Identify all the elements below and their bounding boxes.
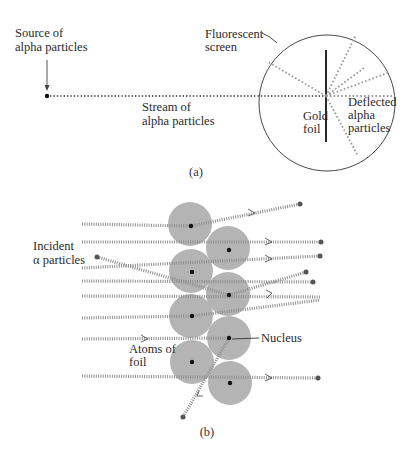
nucleus <box>190 314 194 318</box>
source-label-line1: Source of <box>15 26 64 40</box>
nucleus <box>228 381 232 385</box>
foil-atoms <box>168 202 252 405</box>
deflected-track <box>268 62 326 96</box>
alpha-source-dot <box>45 94 49 98</box>
particle-dot <box>318 254 323 259</box>
deflected-track <box>326 72 390 96</box>
caption-b: (b) <box>200 425 215 439</box>
deflected-label-line3: particles <box>348 121 390 135</box>
particle-dot <box>319 240 324 245</box>
arrow-icon <box>197 391 203 396</box>
atoms-label-line2: foil <box>129 355 147 369</box>
stream-label-line2: alpha particles <box>142 114 215 128</box>
particle-dot <box>95 255 100 260</box>
particle-dot <box>181 415 186 420</box>
particle-dot <box>316 376 321 381</box>
figure-a: Source of alpha particles Stream of alph… <box>15 26 397 179</box>
nucleus <box>190 360 194 364</box>
screen-label-line2: screen <box>205 40 238 54</box>
alpha-track <box>82 376 318 378</box>
incident-label-line1: Incident <box>33 239 74 253</box>
rutherford-diagram: Source of alpha particles Stream of alph… <box>0 0 411 459</box>
foil-label-line1: Gold <box>303 109 329 123</box>
nucleus <box>227 248 231 252</box>
nucleus <box>190 270 194 274</box>
atoms-label-line1: Atoms of <box>129 342 177 356</box>
nucleus <box>189 224 193 228</box>
atom <box>168 202 212 246</box>
particle-dot <box>304 270 309 275</box>
particle-dot <box>298 202 303 207</box>
atom <box>206 226 250 270</box>
nucleus <box>227 336 231 340</box>
deflected-label-line1: Deflected <box>348 95 397 109</box>
source-arrowhead-icon <box>45 85 50 91</box>
nucleus-label: Nucleus <box>261 331 302 345</box>
foil-label-line2: foil <box>303 122 321 136</box>
source-label-line2: alpha particles <box>15 40 88 54</box>
incident-label-line2: α particles <box>33 253 85 267</box>
screen-pointer-arrow <box>262 33 277 43</box>
particle-dot <box>311 280 316 285</box>
screen-label-line1: Fluorescent <box>205 27 264 41</box>
figure-b: Incident α particles Atoms of foil Nucle… <box>33 202 324 440</box>
deflected-label-line2: alpha <box>348 108 376 122</box>
stream-label-line1: Stream of <box>142 100 192 114</box>
alpha-track <box>82 281 313 282</box>
nucleus <box>227 293 231 297</box>
caption-a: (a) <box>189 165 203 179</box>
deflected-track <box>326 68 364 96</box>
